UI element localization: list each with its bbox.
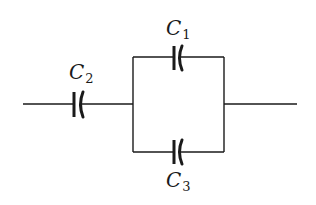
capacitor-c2 [74,92,83,117]
label-c3: C3 [166,168,191,194]
capacitor-c3 [174,140,182,164]
capacitor-c1 [174,46,182,70]
label-c2: C2 [69,60,94,86]
capacitor-c1-curved-plate [180,46,183,70]
label-c1: C1 [166,16,191,42]
circuit-diagram: C1 C2 C3 [0,0,316,205]
